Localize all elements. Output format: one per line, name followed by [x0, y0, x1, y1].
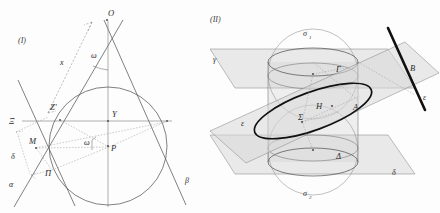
segment-label-x: x	[59, 58, 64, 67]
point-label-Pi: Π	[44, 168, 52, 178]
plane-label-epsilon-right: ε	[423, 93, 427, 102]
sphere-label-sigma-1: σ 1	[303, 29, 312, 40]
sigma-1-subscript: 1	[309, 35, 312, 40]
svg-text:σ: σ	[303, 189, 308, 198]
point-label-Delta: Δ	[335, 151, 341, 161]
line-label-alpha: α	[9, 180, 14, 189]
arrow-xi-dashed	[16, 117, 48, 137]
point-label-Xi: Ξ	[9, 116, 15, 126]
point-label-H: H	[315, 101, 323, 111]
point-label-Z-prime: Z'	[50, 102, 57, 112]
panel-II-number: (II)	[210, 15, 221, 24]
panel-I-graphic: (I) O Y P M Z' Ξ Π ω ω α β δ x	[0, 0, 215, 213]
line-label-delta: δ	[11, 152, 15, 161]
point-label-M: M	[28, 136, 37, 146]
tangent-line-alpha	[14, 20, 123, 207]
angle-mark-omega-center	[92, 137, 96, 150]
figure-canvas: (I) O Y P M Z' Ξ Π ω ω α β δ x	[0, 0, 440, 213]
angle-label-omega-center: ω	[84, 138, 90, 147]
svg-text:σ: σ	[303, 29, 308, 38]
point-label-A: A	[352, 102, 359, 112]
line-label-beta: β	[184, 176, 189, 185]
angle-label-omega-apex: ω	[91, 51, 97, 60]
panel-II-graphic: (II) Γ H Σ A Δ B σ 1 σ 2 γ δ ε ε	[210, 0, 440, 213]
line-delta-steep	[18, 80, 75, 206]
point-label-Sigma: Σ	[297, 112, 303, 122]
point-label-B: B	[410, 63, 415, 73]
point-label-Y: Y	[112, 109, 118, 119]
segment-x-dashed	[48, 22, 92, 113]
sigma-2-subscript: 2	[309, 195, 312, 200]
panel-I-number: (I)	[18, 36, 26, 45]
point-label-O: O	[108, 8, 114, 18]
plane-label-delta: δ	[392, 168, 396, 177]
point-label-P: P	[110, 143, 116, 153]
